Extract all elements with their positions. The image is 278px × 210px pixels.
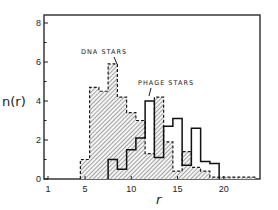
x-tick-label: 10 [126, 184, 136, 194]
x-tick-label: 1 [45, 184, 50, 194]
phage-stars-annotation: PHAGE STARS [138, 79, 194, 87]
x-tick-label: 15 [172, 184, 182, 194]
x-axis-label: r [156, 192, 163, 207]
y-tick-label: 8 [36, 18, 41, 28]
y-axis-label: n(r) [2, 94, 26, 109]
y-tick-label: 2 [36, 135, 41, 145]
y-tick-label: 4 [36, 96, 41, 106]
y-tick-label: 6 [36, 57, 41, 67]
dna-stars-annotation: DNA STARS [81, 48, 127, 56]
histogram-chart: 0246815101520 DNA STARSPHAGE STARS n(r) … [0, 0, 278, 210]
x-tick-label: 20 [219, 184, 229, 194]
x-tick-label: 5 [82, 184, 87, 194]
y-tick-label: 0 [36, 174, 41, 184]
